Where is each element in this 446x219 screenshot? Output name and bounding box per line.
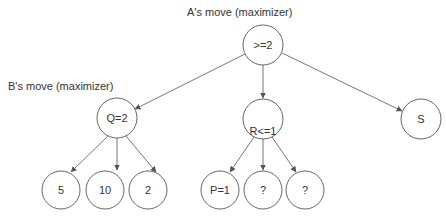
edge-r-leaf3 bbox=[272, 137, 296, 172]
node-q-leaf-2-label: 10 bbox=[99, 184, 111, 196]
node-q-leaf-3-label: 2 bbox=[145, 184, 151, 196]
node-r-leaf-3: ? bbox=[286, 171, 324, 209]
node-r-leaf-1: P=1 bbox=[201, 171, 239, 209]
node-s: S bbox=[401, 99, 441, 139]
node-root: >=2 bbox=[243, 25, 283, 65]
edge-r-leaf1 bbox=[230, 137, 254, 172]
node-q-leaf-2: 10 bbox=[86, 171, 124, 209]
node-q-leaf-3: 2 bbox=[129, 171, 167, 209]
node-r-leaf-2: ? bbox=[244, 171, 282, 209]
edge-root-s bbox=[282, 53, 402, 111]
edge-q-leaf3 bbox=[126, 136, 156, 172]
node-r-label: R<=1 bbox=[250, 125, 277, 137]
node-s-label: S bbox=[417, 113, 424, 125]
node-q-label: Q=2 bbox=[106, 112, 127, 124]
node-root-label: >=2 bbox=[254, 39, 273, 51]
node-r: R<=1 bbox=[243, 99, 283, 139]
game-tree-diagram: A's move (maximizer) B's move (maximizer… bbox=[0, 0, 446, 219]
node-q-leaf-1: 5 bbox=[42, 171, 80, 209]
b-move-label: B's move (maximizer) bbox=[8, 80, 113, 92]
node-q-leaf-1-label: 5 bbox=[58, 184, 64, 196]
node-q: Q=2 bbox=[97, 98, 137, 138]
edge-root-q bbox=[135, 54, 245, 109]
node-r-leaf-1-label: P=1 bbox=[210, 184, 230, 196]
a-move-label: A's move (maximizer) bbox=[187, 6, 292, 18]
node-r-leaf-2-label: ? bbox=[260, 184, 266, 196]
edge-q-leaf1 bbox=[71, 136, 108, 172]
node-r-leaf-3-label: ? bbox=[302, 184, 308, 196]
